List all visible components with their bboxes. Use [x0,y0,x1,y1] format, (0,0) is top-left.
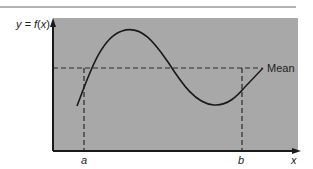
point-a-label: a [81,154,87,166]
plot-area [53,18,298,151]
y-axis-label: y = f(x) [15,18,50,30]
mean-label: Mean [267,62,295,74]
point-b-label: b [238,154,244,166]
mean-value-diagram: y = f(x) Mean a b x [0,0,313,169]
x-axis-label: x [290,154,297,166]
